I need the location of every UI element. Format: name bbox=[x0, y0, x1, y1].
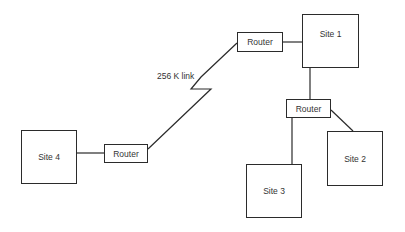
site-4-label: Site 4 bbox=[38, 152, 60, 162]
site-4-box: Site 4 bbox=[21, 130, 77, 184]
router-4-label: Router bbox=[113, 149, 139, 159]
link-label: 256 K link bbox=[157, 71, 194, 81]
router-1-box: Router bbox=[237, 32, 283, 52]
site-2-box: Site 2 bbox=[327, 131, 383, 186]
router-4-box: Router bbox=[104, 144, 148, 163]
router-2-label: Router bbox=[296, 104, 322, 114]
router-2-box: Router bbox=[286, 99, 331, 118]
wan-link-zigzag bbox=[148, 43, 237, 149]
site-1-box: Site 1 bbox=[302, 14, 359, 68]
site-1-label: Site 1 bbox=[320, 29, 342, 39]
edge-router2-site2 bbox=[331, 110, 353, 131]
site-3-box: Site 3 bbox=[246, 164, 302, 218]
router-1-label: Router bbox=[247, 37, 273, 47]
site-2-label: Site 2 bbox=[344, 154, 366, 164]
site-3-label: Site 3 bbox=[263, 186, 285, 196]
